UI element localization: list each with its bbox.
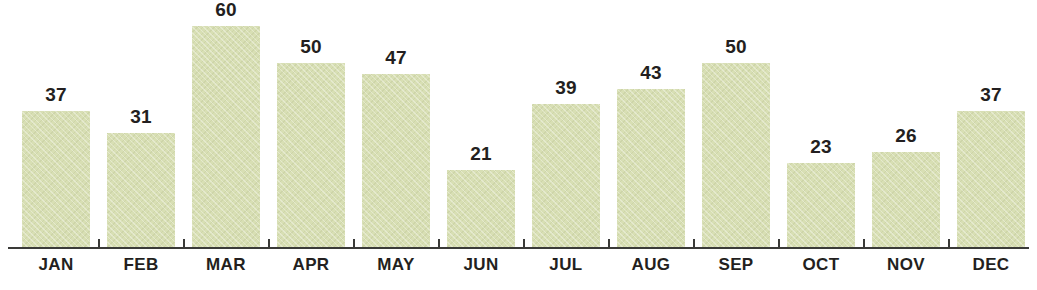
value-label-aug: 43: [617, 63, 685, 82]
x-axis-tick-3: [268, 239, 270, 248]
x-tick-label-sep: SEP: [702, 256, 770, 273]
x-axis-tick-4: [353, 239, 355, 248]
value-label-jul: 39: [532, 78, 600, 97]
bar-rect-apr: [277, 63, 345, 248]
x-axis-tick-10: [863, 239, 865, 248]
value-label-oct: 23: [787, 137, 855, 156]
x-tick-label-nov: NOV: [872, 256, 940, 273]
value-label-mar: 60: [192, 0, 260, 19]
bar-rect-jan: [22, 111, 90, 248]
bar-rect-sep: [702, 63, 770, 248]
value-label-may: 47: [362, 48, 430, 67]
x-axis-tick-9: [778, 239, 780, 248]
x-axis-tick-5: [438, 239, 440, 248]
x-tick-label-dec: DEC: [957, 256, 1025, 273]
x-tick-label-mar: MAR: [192, 256, 260, 273]
bar-rect-may: [362, 74, 430, 248]
x-axis-tick-8: [693, 239, 695, 248]
x-tick-label-jun: JUN: [447, 256, 515, 273]
bar-rect-jul: [532, 104, 600, 248]
x-axis-line: [8, 247, 1029, 249]
value-label-jun: 21: [447, 144, 515, 163]
value-label-apr: 50: [277, 37, 345, 56]
bar-rect-dec: [957, 111, 1025, 248]
x-tick-label-feb: FEB: [107, 256, 175, 273]
bar-chart: 37JAN31FEB60MAR50APR47MAY21JUN39JUL43AUG…: [0, 0, 1037, 290]
value-label-feb: 31: [107, 107, 175, 126]
x-axis-tick-7: [608, 239, 610, 248]
x-tick-label-aug: AUG: [617, 256, 685, 273]
value-label-sep: 50: [702, 37, 770, 56]
x-tick-label-jul: JUL: [532, 256, 600, 273]
bar-rect-nov: [872, 152, 940, 248]
x-axis-tick-1: [98, 239, 100, 248]
x-tick-label-may: MAY: [362, 256, 430, 273]
x-axis-tick-6: [523, 239, 525, 248]
bar-rect-aug: [617, 89, 685, 248]
value-label-jan: 37: [22, 85, 90, 104]
bar-rect-oct: [787, 163, 855, 248]
x-axis-tick-11: [948, 239, 950, 248]
x-tick-label-oct: OCT: [787, 256, 855, 273]
x-axis-tick-2: [183, 239, 185, 248]
x-tick-label-jan: JAN: [22, 256, 90, 273]
value-label-dec: 37: [957, 85, 1025, 104]
value-label-nov: 26: [872, 126, 940, 145]
x-tick-label-apr: APR: [277, 256, 345, 273]
bar-rect-feb: [107, 133, 175, 248]
bar-rect-jun: [447, 170, 515, 248]
bar-rect-mar: [192, 26, 260, 248]
